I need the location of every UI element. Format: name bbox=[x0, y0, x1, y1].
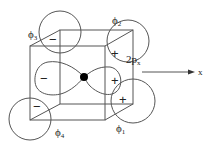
phi1-label: ϕ1 bbox=[116, 122, 126, 136]
orbital-diagram: − + − + − + ϕ3 ϕ2 2px ϕ4 ϕ1 x bbox=[0, 0, 212, 149]
x-axis-arrow bbox=[142, 70, 195, 75]
phi3-sign: − bbox=[49, 32, 57, 47]
x-axis-label: x bbox=[198, 67, 203, 77]
p-left-lobe-sign: − bbox=[40, 71, 48, 86]
phi3-label: ϕ3 bbox=[28, 28, 38, 42]
phi4-sign: − bbox=[33, 99, 41, 114]
phi4-label: ϕ4 bbox=[55, 126, 65, 140]
p-right-lobe-sign: + bbox=[111, 73, 119, 88]
nucleus bbox=[80, 73, 88, 81]
phi2-label: ϕ2 bbox=[112, 14, 122, 28]
p-orbital-lobes bbox=[35, 62, 121, 95]
phi2-sign: + bbox=[111, 46, 119, 61]
phi1-sign: + bbox=[119, 92, 127, 107]
orbital-label: 2px bbox=[126, 53, 141, 67]
